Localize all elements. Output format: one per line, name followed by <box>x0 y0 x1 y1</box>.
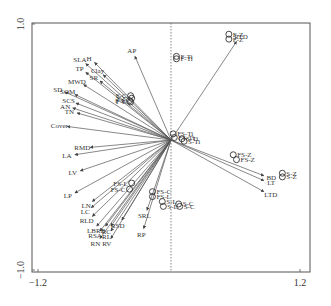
arrow-label: TP <box>76 65 84 73</box>
arrow-ap <box>135 56 171 140</box>
arrow-label: LA <box>62 152 71 160</box>
sample-label: S-Z <box>286 173 297 181</box>
arrow-label: SRL <box>138 212 151 220</box>
arrow-scs <box>76 103 171 140</box>
y-tick-label: −1.0 <box>15 261 26 279</box>
arrow-label: LV <box>68 169 77 177</box>
arrow-label: TN <box>65 108 74 116</box>
arrow-group: APRTDSLAHTPClaySRMWDSDSOMSCSANTNCoverRMD… <box>51 33 277 248</box>
arrow-mwd <box>84 85 171 140</box>
x-tick-label: −1.2 <box>29 277 47 288</box>
arrow-tp <box>86 72 171 140</box>
sample-label: FS-C <box>111 186 126 194</box>
arrow-sla <box>86 64 171 140</box>
arrow-label: SOM <box>60 88 76 96</box>
arrow-label: Cover <box>51 122 69 130</box>
arrow-label: AP <box>127 47 136 55</box>
arrow-label: LT <box>267 179 276 187</box>
sample-label: F-Z <box>233 36 244 44</box>
arrow-label: RLD <box>80 217 94 225</box>
sample-label: S-C <box>184 203 195 211</box>
sample-label: F-L <box>116 98 127 106</box>
arrow-label: LTD <box>264 191 277 199</box>
sample-label: F-Ti <box>180 55 192 63</box>
biplot-svg: APRTDSLAHTPClaySRMWDSDSOMSCSANTNCoverRMD… <box>0 0 331 306</box>
arrow-ltd <box>171 140 264 192</box>
arrow-label: MWD <box>68 78 86 86</box>
arrow-rsd <box>122 140 171 220</box>
arrow-label: RSD <box>111 222 125 230</box>
arrow-label: LC <box>81 208 90 216</box>
arrow-label: SLA <box>73 56 86 64</box>
sample-label: S-L <box>167 203 178 211</box>
arrow-label: RN <box>90 240 100 248</box>
arrow-label: LP <box>64 192 72 200</box>
sample-point <box>127 186 133 192</box>
sample-label: S-Ti <box>188 138 200 146</box>
sample-label: FS-Z <box>241 156 255 164</box>
arrow-label: H <box>86 55 91 63</box>
y-tick-label: 1.0 <box>15 18 26 31</box>
x-tick-label: 1.2 <box>294 277 307 288</box>
arrow-sr <box>100 81 171 140</box>
sample-point <box>279 174 285 180</box>
arrow-label: RMD <box>74 144 90 152</box>
arrow-label: SR <box>90 74 99 82</box>
arrow-label: RV <box>102 240 111 248</box>
arrow-label: RP <box>137 231 146 239</box>
rda-biplot: APRTDSLAHTPClaySRMWDSDSOMSCSANTNCoverRMD… <box>0 0 331 306</box>
arrow-an <box>73 108 171 140</box>
